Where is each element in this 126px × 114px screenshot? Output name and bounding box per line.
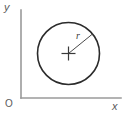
y-axis-label: y <box>4 2 10 13</box>
radius-line <box>69 34 93 54</box>
radius-label: r <box>76 31 80 41</box>
diagram-canvas <box>0 0 126 114</box>
x-axis-label: x <box>112 101 118 112</box>
origin-label: O <box>5 99 13 109</box>
circle-diagram: y x O r <box>0 0 126 114</box>
